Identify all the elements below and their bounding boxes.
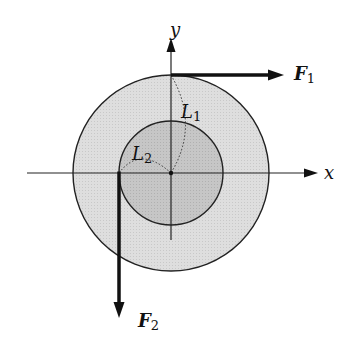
x-axis-label: x [324, 162, 334, 183]
y-axis-arrowhead-icon [167, 38, 176, 52]
force-f2-label: F2 [137, 310, 159, 333]
x-axis-arrowhead-icon [304, 169, 318, 178]
y-axis-label: y [169, 19, 181, 40]
center-point [169, 171, 173, 175]
force-f1-arrowhead-icon [268, 70, 284, 81]
diagram-canvas: y x F1 F2 L1 L2 [0, 0, 354, 347]
force-f1-label: F1 [293, 63, 315, 86]
force-f2-arrowhead-icon [114, 302, 125, 318]
